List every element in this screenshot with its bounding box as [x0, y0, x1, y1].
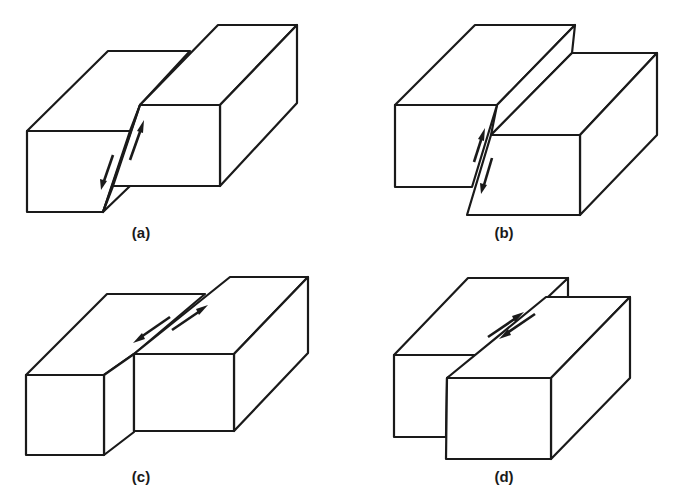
panel-b-normal-fault	[395, 25, 657, 215]
panel-c-left-lateral-fault	[26, 277, 308, 455]
panel-b-label: (b)	[494, 224, 513, 241]
panel-d-right-lateral-fault	[394, 278, 630, 459]
panel-a-label: (a)	[132, 224, 150, 241]
panel-c-label: (c)	[132, 468, 150, 485]
panel-d-label: (d)	[494, 468, 513, 485]
panel-a-reverse-fault	[27, 25, 297, 212]
fault-diagram-figure	[0, 0, 681, 499]
